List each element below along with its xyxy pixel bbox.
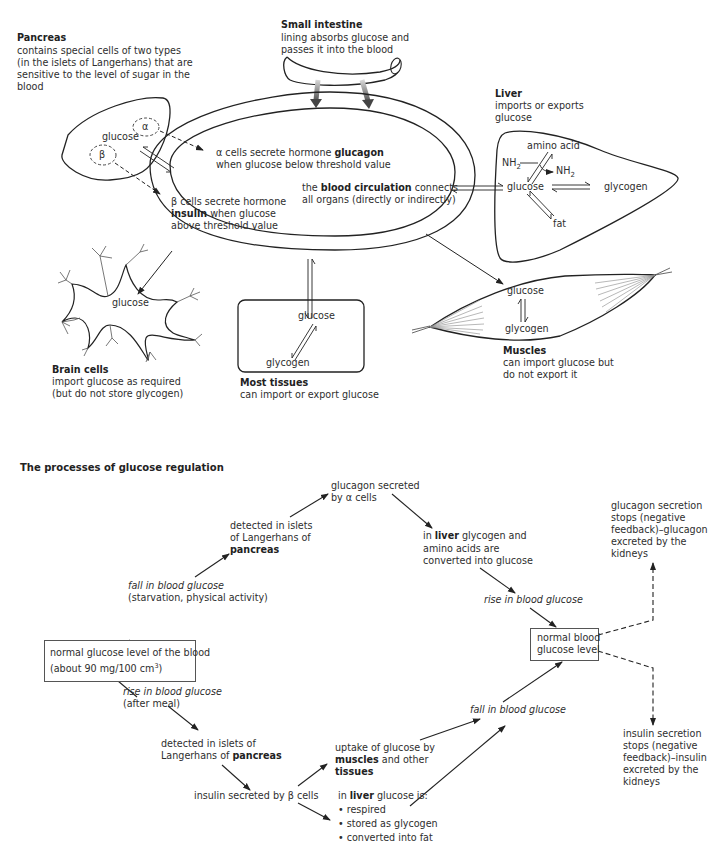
- fall-cause: (starvation, physical activity): [128, 592, 268, 604]
- blood-circulation-text-line2: all organs (directly or indirectly): [302, 194, 456, 206]
- glucagon-stops: feedback)–glucagon: [611, 524, 708, 536]
- alpha-cell-label: α: [142, 121, 148, 133]
- alpha-cells-text-line2: when glucose below threshold value: [216, 159, 391, 171]
- liver-lower-line1: in liver glucose is:: [338, 790, 428, 802]
- uptake-post: and other: [379, 754, 429, 765]
- alpha-cells-text: α cells secrete hormone glucagon: [216, 147, 384, 159]
- blood-pre: the: [302, 182, 321, 193]
- diagram-artwork: [0, 0, 710, 859]
- normal-level-line1: normal glucose level of the blood: [50, 647, 210, 659]
- glucagon-stops: kidneys: [611, 548, 648, 560]
- muscle-glucose: glucose: [507, 285, 544, 297]
- detected-lower-pancreas: pancreas: [232, 750, 281, 761]
- most-tissues-desc: can import or export glucose: [240, 389, 379, 401]
- liver-glucose: glucose: [507, 181, 544, 193]
- brain-glucose: glucose: [112, 297, 149, 309]
- pancreas-glucose-label: glucose: [102, 131, 139, 143]
- blood-circulation-bold: blood circulation: [321, 182, 412, 193]
- liver-upper-post: glycogen and: [459, 530, 527, 541]
- normal-glucose-level-box: normal glucose level of the blood (about…: [44, 640, 196, 682]
- liver-lower-bullet: • converted into fat: [338, 832, 433, 844]
- normal-level-line2: (about 90 mg/100 cm3): [50, 660, 162, 676]
- detected-lower-pre: Langerhans of: [161, 750, 232, 761]
- pancreas-title: Pancreas: [17, 32, 66, 44]
- rise-in-blood-glucose-right: rise in blood glucose: [484, 594, 583, 606]
- small-intestine-desc: lining absorbs glucose and: [281, 32, 409, 44]
- liver-nh2-in: NH2: [502, 157, 521, 173]
- muscles-desc: can import glucose but: [503, 357, 614, 369]
- muscles-title: Muscles: [503, 345, 546, 357]
- liver-upper-line2: amino acids are: [423, 543, 499, 555]
- section-title: The processes of glucose regulation: [20, 462, 224, 474]
- uptake-line2: muscles and other: [335, 754, 428, 766]
- alpha-text: α cells secrete hormone: [216, 147, 334, 158]
- insulin-stops: kidneys: [623, 776, 660, 788]
- detected-upper: detected in islets: [230, 520, 313, 532]
- liver-lower-bullet: • respired: [338, 804, 386, 816]
- liver-upper-line1: in liver glycogen and: [423, 530, 527, 542]
- subscript: 2: [516, 163, 520, 171]
- liver-fat: fat: [553, 218, 566, 230]
- glucagon-secreted: glucagon secreted: [331, 480, 420, 492]
- arrow-to-brain: [138, 251, 172, 294]
- liver-lower-bullet: • stored as glycogen: [338, 818, 438, 830]
- beta-cells-text-line2: insulin when glucose: [171, 208, 276, 220]
- liver-upper-pre: in: [423, 530, 435, 541]
- muscles-bold: muscles: [335, 754, 379, 765]
- beta-cell-label: β: [99, 149, 105, 161]
- muscle-glycogen: glycogen: [505, 323, 549, 335]
- brain-cells-desc: (but do not store glycogen): [52, 388, 183, 400]
- fall-in-blood-glucose-lower: fall in blood glucose: [470, 704, 566, 716]
- normal-blood-line2: glucose level: [537, 644, 600, 656]
- brain-cells-title: Brain cells: [52, 364, 108, 376]
- normal-level-close: ): [159, 663, 163, 674]
- arrow-to-muscle: [426, 234, 503, 284]
- glucagon-bold: glucagon: [334, 147, 383, 158]
- detected-lower: detected in islets of: [161, 738, 256, 750]
- liver-nh2-out: NH2: [556, 165, 575, 181]
- glucagon-secreted: by α cells: [331, 492, 377, 504]
- liver-desc: glucose: [495, 112, 532, 124]
- subscript: 2: [570, 171, 574, 179]
- liver-lower-post: glucose is:: [374, 790, 428, 801]
- small-intestine-shape: [284, 57, 403, 85]
- normal-blood-line1: normal blood: [537, 632, 600, 644]
- nh-text: NH: [556, 165, 570, 176]
- normal-blood-glucose-box: normal blood glucose level: [530, 628, 599, 661]
- glucagon-stops: stops (negative: [611, 512, 685, 524]
- blood-post: connects: [412, 182, 458, 193]
- insulin-secreted: insulin secreted by β cells: [194, 790, 318, 802]
- pancreas-desc-line: blood: [17, 81, 44, 93]
- insulin-bold: insulin: [171, 208, 207, 219]
- muscles-desc: do not export it: [503, 369, 577, 381]
- feedback-dashed-arrows: [598, 563, 653, 725]
- normal-level-text: (about 90 mg/100 cm: [50, 663, 154, 674]
- liver-amino-acid: amino acid: [527, 140, 580, 152]
- small-intestine-desc: passes it into the blood: [281, 44, 393, 56]
- tissues-glucose: glucose: [298, 310, 335, 322]
- pancreas-shape: [62, 98, 203, 194]
- brain-cell-shape: [62, 265, 195, 360]
- pancreas-desc-line: sensitive to the level of sugar in the: [17, 69, 190, 81]
- pancreas-desc-line: contains special cells of two types: [17, 45, 181, 57]
- most-tissues-title: Most tissues: [240, 377, 308, 389]
- blood-circulation-text: the blood circulation connects: [302, 182, 458, 194]
- liver-bold: liver: [435, 530, 459, 541]
- brain-cells-desc: import glucose as required: [52, 376, 181, 388]
- beta-cells-text: β cells secrete hormone: [171, 196, 286, 208]
- insulin-stops: insulin secretion: [623, 728, 701, 740]
- beta-cells-text-line3: above threshold value: [171, 220, 278, 232]
- liver-glycogen: glycogen: [604, 181, 648, 193]
- beta-text-rest: when glucose: [207, 208, 276, 219]
- insulin-stops: stops (negative: [623, 740, 697, 752]
- liver-lower-pre: in: [338, 790, 350, 801]
- liver-lower-bold: liver: [350, 790, 374, 801]
- detected-upper-pancreas: pancreas: [230, 544, 279, 556]
- fall-in-blood-glucose: fall in blood glucose: [128, 580, 224, 592]
- insulin-stops: excreted by the: [623, 764, 699, 776]
- glucagon-stops: glucagon secretion: [611, 500, 702, 512]
- small-intestine-title: Small intestine: [281, 19, 362, 31]
- uptake-line1: uptake of glucose by: [335, 742, 435, 754]
- detected-upper: of Langerhans of: [230, 532, 311, 544]
- liver-upper-line3: converted into glucose: [423, 555, 533, 567]
